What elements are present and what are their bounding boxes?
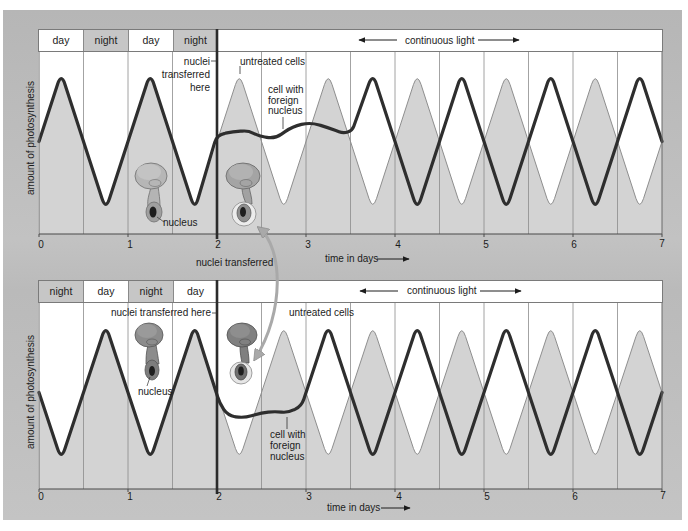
top-continuous-light-label: continuous light xyxy=(405,35,475,46)
label-line: cell with xyxy=(270,429,306,440)
top-y-axis-label: amount of photosynthesis xyxy=(25,63,37,213)
top-nucleus-label: nucleus xyxy=(163,217,197,228)
label-line: nuclei xyxy=(150,55,210,68)
top-x-axis-label: time in days xyxy=(325,253,378,264)
bottom-cell-with-foreign-nucleus-label: cell with foreign nucleus xyxy=(270,429,306,462)
bottom-y-axis-label: amount of photosynthesis xyxy=(25,317,37,467)
bottom-x-tick-3: 3 xyxy=(299,491,319,502)
top-x-tick-1: 1 xyxy=(120,239,140,250)
nuclei-transferred-label: nuclei transferred xyxy=(196,257,273,268)
bottom-continuous-light-label: continuous light xyxy=(407,285,477,296)
label-layer: continuous light amount of photosynthesi… xyxy=(0,0,688,531)
bottom-x-tick-6: 6 xyxy=(565,491,585,502)
label-line: nucleus xyxy=(268,106,304,117)
bottom-x-tick-4: 4 xyxy=(389,491,409,502)
top-untreated-cells-label: untreated cells xyxy=(240,56,305,67)
top-nuclei-transferred-here-label: nuclei transferred here xyxy=(150,55,210,94)
bottom-x-tick-0: 0 xyxy=(31,491,51,502)
label-line: cell with xyxy=(268,85,304,96)
bottom-x-tick-5: 5 xyxy=(477,491,497,502)
bottom-x-tick-2: 2 xyxy=(209,491,229,502)
bottom-x-tick-7: 7 xyxy=(653,490,673,501)
bottom-nucleus-label: nucleus xyxy=(138,386,172,397)
bottom-x-axis-label: time in days xyxy=(327,502,380,513)
bottom-untreated-cells-label: untreated cells xyxy=(289,307,354,318)
top-x-tick-0: 0 xyxy=(31,239,51,250)
figure: day night day night night day night day xyxy=(0,0,688,531)
top-cell-with-foreign-nucleus-label: cell with foreign nucleus xyxy=(268,85,304,117)
label-line: foreign xyxy=(270,440,306,451)
bottom-nuclei-transferred-here-label: nuclei transferred here xyxy=(80,307,211,318)
top-x-tick-5: 5 xyxy=(476,239,496,250)
bottom-x-tick-1: 1 xyxy=(120,491,140,502)
top-x-tick-2: 2 xyxy=(208,239,228,250)
label-line: nucleus xyxy=(270,451,306,462)
top-x-tick-7: 7 xyxy=(652,238,672,249)
top-x-tick-4: 4 xyxy=(388,239,408,250)
top-x-tick-6: 6 xyxy=(564,239,584,250)
label-line: here xyxy=(150,81,210,94)
top-x-tick-3: 3 xyxy=(298,239,318,250)
label-line: transferred xyxy=(150,68,210,81)
